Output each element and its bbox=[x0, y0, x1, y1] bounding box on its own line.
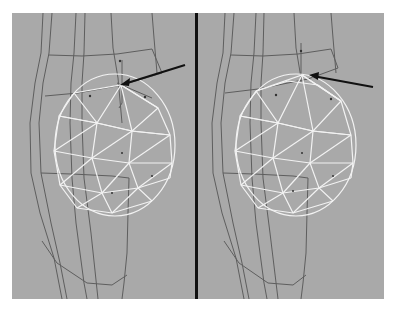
vertex-markers bbox=[275, 50, 334, 192]
viewport-comparison: Before bbox=[12, 13, 384, 299]
sphere-mesh bbox=[235, 74, 356, 216]
wireframe-render bbox=[12, 13, 195, 299]
left-viewport-panel: Before bbox=[12, 13, 195, 299]
vertex-markers bbox=[89, 60, 153, 194]
right-viewport-panel: After bbox=[198, 13, 384, 299]
sphere-mesh bbox=[54, 74, 175, 216]
wireframe-render bbox=[198, 13, 384, 299]
